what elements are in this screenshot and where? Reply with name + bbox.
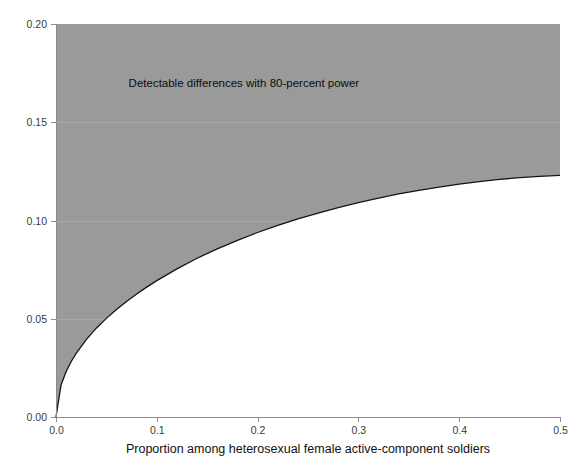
x-tick-label: 0.0 (49, 424, 64, 436)
chart-container: 0.000.050.100.150.20 0.00.10.20.30.40.5 … (0, 0, 588, 467)
y-tick-label: 0.20 (27, 18, 48, 30)
y-tick-label: 0.05 (27, 313, 48, 325)
annotation-detectable-differences: Detectable differences with 80-percent p… (129, 77, 360, 89)
detectable-differences-chart: 0.000.050.100.150.20 0.00.10.20.30.40.5 … (0, 0, 588, 467)
y-tick-label: 0.15 (27, 116, 48, 128)
x-tick-label: 0.3 (352, 424, 367, 436)
x-tick-label: 0.4 (452, 424, 467, 436)
x-tick-label: 0.5 (553, 424, 568, 436)
x-axis-title: Proportion among heterosexual female act… (126, 442, 490, 456)
x-tick-label: 0.2 (251, 424, 266, 436)
y-tick-label: 0.10 (27, 215, 48, 227)
x-tick-label: 0.1 (150, 424, 165, 436)
y-tick-label: 0.00 (27, 411, 48, 423)
